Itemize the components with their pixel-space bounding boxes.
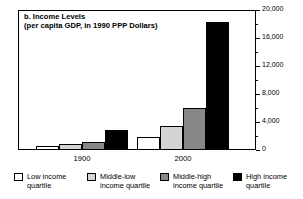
y-tick-label: 4,000 [262,117,280,124]
y-minor-tick-mark [256,52,258,53]
y-tick-mark [256,94,260,95]
legend-item[interactable]: Low income quartile [14,172,66,191]
legend-label: Middle-high income quartile [173,172,223,191]
y-tick-label: 16,000 [262,33,283,40]
legend-swatch-icon [14,173,23,181]
y-tick-mark [256,10,260,11]
y-tick-mark [256,122,260,123]
bar [36,146,59,150]
y-minor-tick-mark [256,80,258,81]
y-minor-tick-mark [256,108,258,109]
bar [59,144,82,150]
y-minor-tick-mark [256,24,258,25]
legend-swatch-icon [233,173,242,181]
bar [137,137,160,150]
y-minor-tick-mark [256,136,258,137]
legend-swatch-icon [87,173,96,181]
bar [105,130,128,150]
legend-item[interactable]: Middle-low income quartile [87,172,150,191]
y-tick-mark [256,150,260,151]
x-axis-label-1900: 1900 [26,154,138,163]
bar [206,22,229,150]
y-tick-mark [256,66,260,67]
legend-label: Middle-low income quartile [100,172,150,191]
bar-group-2000 [137,10,229,150]
legend-swatch-icon [160,173,169,181]
bar [183,108,206,150]
y-tick-label: 0 [262,145,266,152]
y-tick-label: 8,000 [262,89,280,96]
bar [160,126,183,150]
legend-item[interactable]: High income quartile [233,172,287,191]
x-axis-label-2000: 2000 [127,154,239,163]
y-tick-mark [256,38,260,39]
income-levels-chart-figure: b. Income Levels (per capita GDP, in 199… [0,0,303,199]
legend-label: High income quartile [246,172,287,191]
y-axis: 04,0008,00012,00016,00020,000 [256,10,303,150]
legend-label: Low income quartile [27,172,66,191]
bar [82,142,105,150]
bar-group-1900 [36,10,128,150]
chart-legend: Low income quartileMiddle-low income qua… [14,172,300,198]
legend-item[interactable]: Middle-high income quartile [160,172,223,191]
y-tick-label: 12,000 [262,61,283,68]
y-tick-label: 20,000 [262,5,283,12]
